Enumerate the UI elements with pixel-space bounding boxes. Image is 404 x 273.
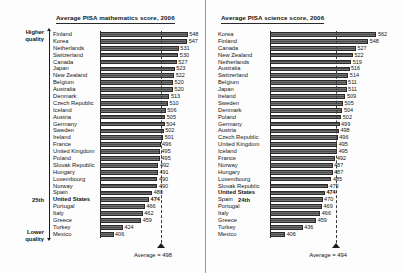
bar-value-label: 474 <box>151 196 160 203</box>
bar-track: 495 <box>100 148 205 155</box>
bar <box>270 101 343 106</box>
country-label: Austria <box>53 114 100 121</box>
bar-track: 527 <box>100 59 205 66</box>
country-label: Switzerland <box>53 52 100 59</box>
bar-value-label: 531 <box>180 45 189 52</box>
country-label: Sweden <box>53 127 100 134</box>
bar-value-label: 498 <box>340 127 349 134</box>
quality-lower-line2: quality <box>25 236 44 242</box>
quality-label-lower: Lower quality <box>0 229 44 242</box>
bar-row: Iceland506 <box>53 107 205 114</box>
bar-value-label: 466 <box>146 203 155 210</box>
bar-value-label: 502 <box>165 127 174 134</box>
country-label: Mexico <box>53 231 100 238</box>
country-label: Hungary <box>53 169 100 176</box>
country-label: Denmark <box>53 93 100 100</box>
bar-value-label: 466 <box>322 210 331 217</box>
bar-value-label: 504 <box>166 121 175 128</box>
bar <box>100 60 177 65</box>
bar <box>100 101 168 106</box>
country-label: Sweden <box>218 100 270 107</box>
bar-value-label: 523 <box>176 65 185 72</box>
bar-track: 547 <box>100 38 205 45</box>
bar-value-label: 406 <box>287 231 296 238</box>
country-label: Mexico <box>218 231 270 238</box>
bar-value-label: 496 <box>339 134 348 141</box>
country-label: Portugal <box>218 203 270 210</box>
bar <box>100 149 160 154</box>
bar-track: 505 <box>100 114 205 121</box>
country-label: Germany <box>218 121 270 128</box>
bar-value-label: 509 <box>347 93 356 100</box>
bar <box>270 191 325 196</box>
bar-value-label: 406 <box>115 231 124 238</box>
bar-value-label: 469 <box>324 203 333 210</box>
bar-row: Netherlands519 <box>218 59 404 66</box>
bar-row: Poland495 <box>53 155 205 162</box>
bar-value-label: 511 <box>348 86 357 93</box>
bar <box>270 53 353 58</box>
bar <box>100 108 166 113</box>
bar-row: Greece459 <box>218 217 404 224</box>
country-label: France <box>53 141 100 148</box>
bar-value-label: 516 <box>351 65 360 72</box>
bar <box>100 197 149 202</box>
bar <box>270 32 376 37</box>
bar <box>270 108 342 113</box>
quality-label-higher: Higher quality <box>0 29 44 42</box>
bar-track: 501 <box>100 134 205 141</box>
country-label: Belgium <box>218 79 270 86</box>
bar <box>270 115 341 120</box>
bar <box>100 211 143 216</box>
country-label: Luxembourg <box>218 176 270 183</box>
bar-row: Norway487 <box>218 162 404 169</box>
bar-value-label: 495 <box>339 141 348 148</box>
average-marker-science <box>332 243 340 248</box>
bar-row: Hungary487 <box>218 169 404 176</box>
bar-row: Finland548 <box>53 31 205 38</box>
bar-track: 480 <box>100 189 205 196</box>
bar <box>270 170 333 175</box>
quality-lower-line1: Lower <box>27 229 44 235</box>
bar-row: Germany499 <box>218 121 404 128</box>
country-label: Belgium <box>53 79 100 86</box>
bar <box>100 87 173 92</box>
country-label: Ireland <box>53 134 100 141</box>
bar-value-label: 514 <box>350 72 359 79</box>
us-rank-mathematics: 25th <box>0 197 44 203</box>
country-label: Japan <box>218 86 270 93</box>
country-label: Ireland <box>218 93 270 100</box>
country-label: Finland <box>218 38 270 45</box>
bar <box>100 73 174 78</box>
bar-row: Australia520 <box>53 86 205 93</box>
bar <box>270 60 351 65</box>
bar <box>270 156 335 161</box>
bar-track: 548 <box>100 31 205 38</box>
bar-row: Korea562 <box>218 31 404 38</box>
bar <box>100 80 173 85</box>
average-label-mathematics: Average = 498 <box>134 252 172 258</box>
country-label: Japan <box>53 65 100 72</box>
chart-title-science: Average PISA science score, 2006 <box>221 14 324 24</box>
bar-value-label: 548 <box>189 31 198 38</box>
bar-row: Mexico406 <box>53 231 205 238</box>
country-label: Czech Republic <box>53 100 100 107</box>
bar <box>270 94 345 99</box>
bar-row: New Zealand522 <box>218 52 404 59</box>
bar <box>100 53 178 58</box>
bar-row: Slovak Republic479 <box>218 183 404 190</box>
bar-row: Denmark504 <box>218 107 404 114</box>
average-line-mathematics <box>161 31 162 243</box>
country-label: New Zealand <box>218 52 270 59</box>
country-label: Italy <box>218 210 270 217</box>
bar-row: Korea547 <box>53 38 205 45</box>
bar-row: Iceland495 <box>218 148 404 155</box>
bar <box>270 184 328 189</box>
bar-track: 495 <box>100 155 205 162</box>
bar-row: Belgium511 <box>218 79 404 86</box>
country-label: Greece <box>53 217 100 224</box>
bar-track: 520 <box>100 79 205 86</box>
bar-track: 474 <box>100 196 205 203</box>
country-label: Norway <box>53 183 100 190</box>
bar-value-label: 459 <box>318 217 327 224</box>
